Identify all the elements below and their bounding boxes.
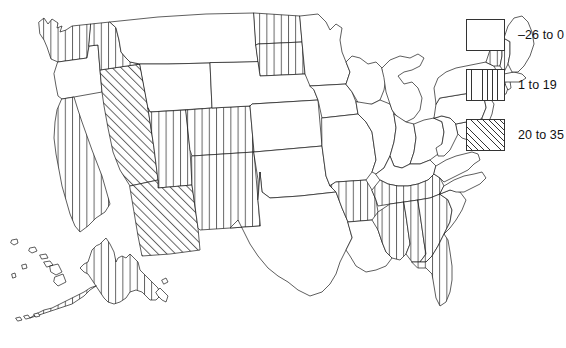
- alaska-aleutians: [16, 313, 40, 321]
- map-legend: –26 to 0 1 to 19 20 to 35: [466, 18, 566, 168]
- legend-item-0: –26 to 0: [466, 18, 566, 52]
- state-AZ: [130, 180, 200, 256]
- legend-item-1: 1 to 19: [466, 68, 566, 102]
- state-MN: [300, 14, 350, 86]
- hawaii-small-islands: [12, 264, 27, 278]
- state-CO: [186, 106, 254, 156]
- state-WY: [140, 63, 212, 112]
- legend-label-none: –26 to 0: [518, 29, 564, 42]
- state-WA: [39, 18, 91, 62]
- state-CA: [54, 97, 110, 232]
- choropleth-figure: –26 to 0 1 to 19 20 to 35: [0, 0, 566, 348]
- legend-swatch-none: [466, 19, 505, 51]
- state-MT: [110, 13, 258, 64]
- state-KS: [250, 100, 322, 152]
- legend-swatch-diagonal: [466, 119, 505, 151]
- state-SD: [256, 42, 305, 76]
- legend-label-vertical: 1 to 19: [518, 79, 557, 92]
- state-NM: [192, 152, 260, 230]
- state-ND: [254, 13, 302, 45]
- state-HI: [11, 239, 66, 286]
- legend-item-2: 20 to 35: [466, 118, 566, 152]
- legend-swatch-vertical: [466, 69, 505, 101]
- legend-label-diagonal: 20 to 35: [518, 129, 564, 142]
